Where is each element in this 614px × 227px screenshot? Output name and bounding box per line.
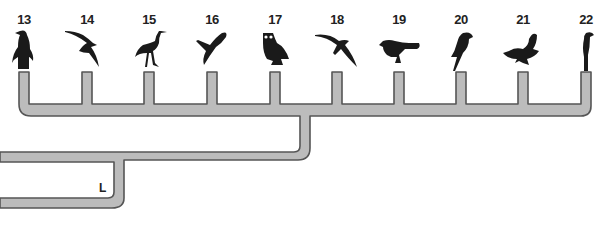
shrike-icon [562,27,610,73]
main-clade-bar [0,72,591,208]
taxon-number: 21 [508,12,538,27]
penguin-icon [0,27,48,73]
taxon-number: 22 [571,12,601,27]
cuckoo-icon [499,27,547,73]
taxon-number: 18 [322,12,352,27]
songbird-icon [375,27,423,73]
heron-icon [125,27,173,73]
taxon-number: 19 [384,12,414,27]
taxon-number: 16 [197,12,227,27]
taxon-number: 17 [260,12,290,27]
parrot-icon [437,27,485,73]
node-label: L [99,181,106,195]
taxon-number: 20 [446,12,476,27]
taxon-number: 14 [72,12,102,27]
swift-icon [313,27,361,73]
gull-icon [188,27,236,73]
taxon-number: 15 [134,12,164,27]
taxon-number: 13 [9,12,39,27]
owl-icon [251,27,299,73]
albatross-icon [63,27,111,73]
